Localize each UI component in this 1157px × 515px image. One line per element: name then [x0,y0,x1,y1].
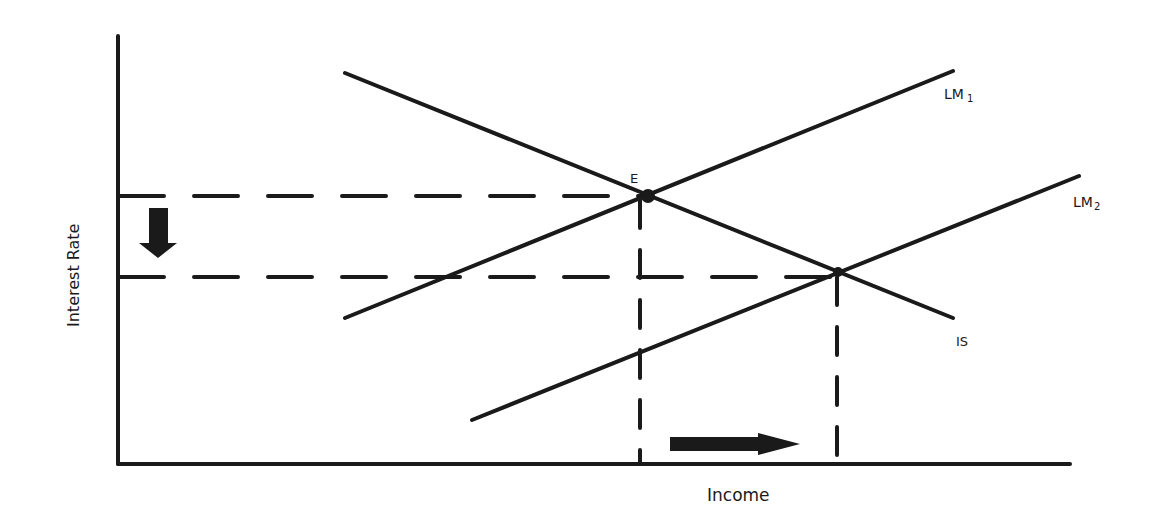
lm2-label-main: LM [1073,194,1093,210]
y-axis-label: Interest Rate [64,224,83,327]
guide-lines [120,196,838,462]
down-arrow-icon [139,208,177,258]
curves [345,71,1079,420]
right-arrow-icon [670,433,800,455]
lm2-curve [472,176,1079,420]
is-label: IS [956,334,968,349]
lm2-label-sub: 2 [1094,201,1100,212]
lm1-label-sub: 1 [967,93,973,104]
axes [118,36,1070,464]
equilibrium-e-dot [641,189,655,203]
lm1-label-main: LM [944,86,964,102]
x-axis-label: Income [707,485,770,505]
lm2-label: LM2 [1073,194,1100,212]
point-e-label: E [630,171,638,186]
lm1-label: LM1 [944,86,973,104]
is-lm-diagram: E LM1 LM2 IS Income Interest Rate [0,0,1157,515]
equilibrium-new-dot [833,267,843,277]
